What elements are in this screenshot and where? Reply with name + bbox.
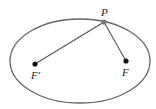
focus-fprime — [32, 61, 37, 66]
ellipse-diagram: P F′ F — [0, 0, 156, 109]
point-p — [101, 19, 106, 24]
label-f: F — [121, 66, 129, 78]
label-p: P — [100, 6, 108, 18]
label-fprime: F′ — [30, 69, 41, 81]
segment-p-fprime — [35, 22, 104, 64]
focus-f — [123, 58, 128, 63]
ellipse — [10, 19, 150, 103]
